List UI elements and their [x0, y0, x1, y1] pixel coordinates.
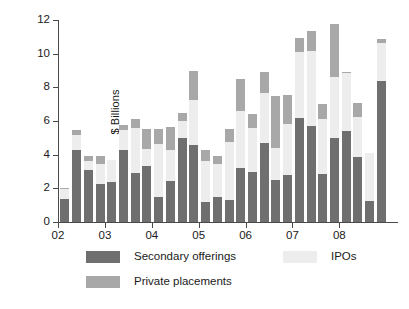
legend-swatch-secondary-offerings [86, 251, 120, 263]
bar-segment-ipos [248, 128, 257, 173]
bar-segment-ipos [131, 128, 140, 173]
bar-02Q3 [84, 156, 93, 222]
x-tick-label-06: 06 [239, 230, 252, 242]
chart-legend: Secondary offerings IPOs Private placeme… [86, 249, 396, 299]
bar-segment-ipos [201, 161, 210, 202]
bar-segment-ipos [365, 153, 374, 201]
bar-segment-private-placements [295, 38, 304, 52]
bar-segment-private-placements [318, 104, 327, 119]
y-tick-mark [53, 155, 58, 156]
x-tick-label-08: 08 [333, 230, 346, 242]
bar-segment-private-placements [166, 127, 175, 150]
bar-03Q3 [131, 119, 140, 222]
bar-segment-ipos [330, 77, 339, 138]
bar-segment-private-placements [201, 150, 210, 160]
bar-04Q1 [154, 129, 163, 222]
x-tick-label-03: 03 [98, 230, 111, 242]
bar-segment-secondary-offerings [295, 118, 304, 222]
bar-segment-private-placements [154, 129, 163, 143]
bar-06Q1 [248, 114, 257, 222]
bar-08Q4 [377, 39, 386, 222]
bar-segment-private-placements [60, 188, 69, 190]
bar-segment-ipos [72, 135, 81, 149]
bar-segment-secondary-offerings [119, 150, 128, 222]
bar-07Q4 [330, 24, 339, 222]
bar-segment-secondary-offerings [377, 81, 386, 222]
bar-segment-private-placements [283, 95, 292, 124]
bar-segment-private-placements [131, 119, 140, 127]
legend-swatch-private-placements [86, 276, 120, 288]
x-tick-label-02: 02 [52, 230, 65, 242]
x-tick-mark-03 [105, 223, 106, 228]
bar-segment-secondary-offerings [84, 170, 93, 222]
bar-05Q3 [225, 129, 234, 222]
bar-segment-ipos [213, 164, 222, 197]
x-tick-mark-06 [246, 223, 247, 228]
bar-segment-ipos [271, 148, 280, 180]
bar-segment-private-placements [260, 72, 269, 93]
bar-segment-private-placements [307, 31, 316, 51]
bar-segment-secondary-offerings [213, 197, 222, 222]
bar-segment-ipos [225, 142, 234, 200]
bar-segment-secondary-offerings [60, 199, 69, 222]
bar-segment-ipos [260, 93, 269, 143]
legend-item-ipos: IPOs [283, 251, 357, 263]
bar-segment-private-placements [377, 39, 386, 43]
y-tick-mark [53, 188, 58, 189]
y-tick-mark [53, 121, 58, 122]
bar-05Q4 [236, 79, 245, 222]
bar-segment-private-placements [84, 156, 93, 160]
bar-segment-secondary-offerings [260, 143, 269, 222]
bar-segment-ipos [119, 130, 128, 149]
bar-02Q2 [72, 130, 81, 222]
bar-04Q4 [189, 71, 198, 222]
bar-segment-secondary-offerings [342, 131, 351, 222]
bar-segment-secondary-offerings [142, 166, 151, 222]
x-tick-mark-04 [152, 223, 153, 228]
bar-segment-private-placements [248, 114, 257, 127]
bar-07Q1 [295, 38, 304, 222]
bar-segment-private-placements [119, 125, 128, 130]
legend-label-ipos: IPOs [331, 251, 357, 263]
bar-segment-private-placements [330, 24, 339, 77]
x-tick-label-05: 05 [192, 230, 205, 242]
bar-08Q1 [342, 72, 351, 222]
bar-segment-secondary-offerings [330, 138, 339, 222]
bar-segment-private-placements [271, 96, 280, 148]
bar-06Q2 [260, 72, 269, 222]
y-tick-mark [53, 87, 58, 88]
bar-segment-ipos [178, 121, 187, 138]
bar-08Q2 [353, 103, 362, 222]
bar-segment-secondary-offerings [248, 172, 257, 222]
bar-segment-private-placements [353, 103, 362, 116]
bar-05Q1 [201, 150, 210, 222]
bar-segment-private-placements [236, 79, 245, 111]
bar-segment-ipos [154, 144, 163, 197]
bar-segment-ipos [318, 119, 327, 174]
bar-segment-ipos [307, 51, 316, 126]
bar-segment-private-placements [342, 72, 351, 73]
bar-segment-secondary-offerings [353, 157, 362, 222]
bar-03Q2 [119, 125, 128, 222]
bar-segment-secondary-offerings [283, 175, 292, 222]
bar-segment-private-placements [72, 130, 81, 135]
bar-02Q4 [96, 156, 105, 222]
y-tick-label: 2 [44, 183, 50, 195]
bar-segment-secondary-offerings [365, 201, 374, 222]
bar-07Q2 [307, 31, 316, 222]
bar-segment-ipos [142, 149, 151, 166]
bar-segment-ipos [189, 100, 198, 145]
x-tick-mark-07 [292, 223, 293, 228]
bar-segment-private-placements [225, 129, 234, 142]
y-tick-mark [53, 20, 58, 21]
y-tick-label: 10 [37, 48, 50, 60]
bar-segment-private-placements [178, 113, 187, 121]
y-tick-label: 12 [37, 14, 50, 26]
bar-05Q2 [213, 156, 222, 222]
bar-segment-ipos [107, 160, 116, 182]
bar-segment-secondary-offerings [107, 182, 116, 222]
x-tick-mark-02 [58, 223, 59, 228]
x-tick-label-07: 07 [286, 230, 299, 242]
bar-segment-ipos [377, 43, 386, 81]
legend-item-secondary-offerings: Secondary offerings [86, 251, 236, 263]
